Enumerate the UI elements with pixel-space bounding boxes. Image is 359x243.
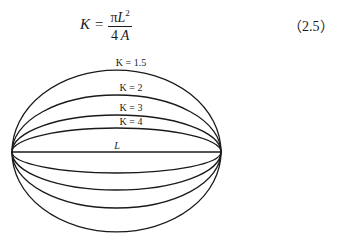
label-l: L: [113, 140, 120, 151]
label-k2: K = 2: [120, 82, 143, 93]
curve-k4-lower: [12, 152, 221, 173]
ellipse-diagram: K = 1.5 K = 2 K = 3 K = 4 L: [0, 0, 359, 243]
curve-k3-lower: [12, 152, 221, 190]
curve-k2-lower: [12, 152, 221, 208]
label-k4: K = 4: [120, 116, 143, 127]
label-k1_5: K = 1.5: [116, 57, 146, 68]
label-k3: K = 3: [120, 102, 143, 113]
